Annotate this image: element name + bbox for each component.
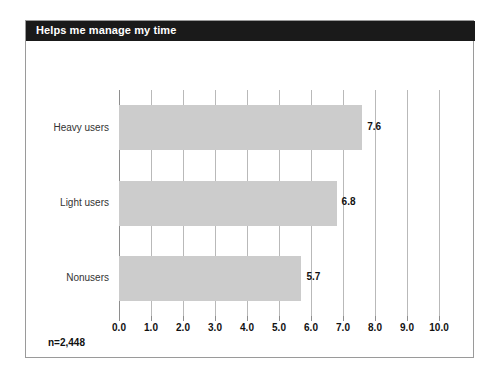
x-axis-tick-label: 0.0 — [112, 322, 126, 333]
axis-tick — [183, 316, 184, 321]
category-label: Nonusers — [0, 272, 109, 283]
axis-tick — [439, 316, 440, 321]
category-label: Heavy users — [0, 122, 109, 133]
chart-body: 0.01.02.03.04.05.06.07.08.09.010.07.6Hea… — [26, 41, 475, 358]
axis-tick — [215, 316, 216, 321]
plot-area: 0.01.02.03.04.05.06.07.08.09.010.07.6Hea… — [119, 90, 439, 316]
bar — [119, 105, 362, 150]
x-axis-tick-label: 5.0 — [272, 322, 286, 333]
x-axis-tick-label: 9.0 — [400, 322, 414, 333]
chart-title-bar: Helps me manage my time — [26, 21, 475, 41]
bar-value-label: 5.7 — [306, 271, 320, 282]
axis-tick — [119, 316, 120, 321]
x-axis-tick-label: 6.0 — [304, 322, 318, 333]
axis-tick — [407, 316, 408, 321]
axis-tick — [311, 316, 312, 321]
axis-tick — [247, 316, 248, 321]
bar — [119, 181, 337, 226]
axis-tick — [279, 316, 280, 321]
x-axis-tick-label: 1.0 — [144, 322, 158, 333]
chart-title: Helps me manage my time — [36, 24, 176, 36]
category-label: Light users — [0, 197, 109, 208]
gridline — [439, 90, 440, 316]
bar — [119, 256, 301, 301]
gridline — [407, 90, 408, 316]
x-axis-tick-label: 4.0 — [240, 322, 254, 333]
x-axis-tick-label: 8.0 — [368, 322, 382, 333]
axis-tick — [151, 316, 152, 321]
x-axis-tick-label: 2.0 — [176, 322, 190, 333]
chart-card: Helps me manage my time 0.01.02.03.04.05… — [25, 20, 474, 358]
axis-tick — [375, 316, 376, 321]
axis-tick — [343, 316, 344, 321]
x-axis-tick-label: 7.0 — [336, 322, 350, 333]
bar-value-label: 7.6 — [367, 121, 381, 132]
x-axis-tick-label: 3.0 — [208, 322, 222, 333]
sample-size-note: n=2,448 — [48, 337, 85, 348]
bar-value-label: 6.8 — [342, 196, 356, 207]
x-axis-tick-label: 10.0 — [429, 322, 448, 333]
